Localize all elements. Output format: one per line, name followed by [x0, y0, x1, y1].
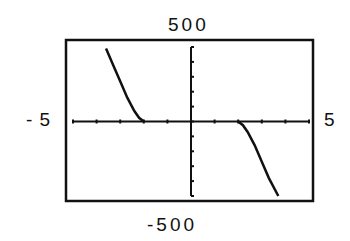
graph-plot — [0, 0, 350, 241]
xmax-label: 5 — [324, 109, 338, 131]
ymin-label: -500 — [147, 214, 197, 236]
ymax-label: 500 — [168, 14, 209, 36]
xmin-label: - 5 — [26, 109, 51, 131]
axes — [73, 47, 309, 196]
